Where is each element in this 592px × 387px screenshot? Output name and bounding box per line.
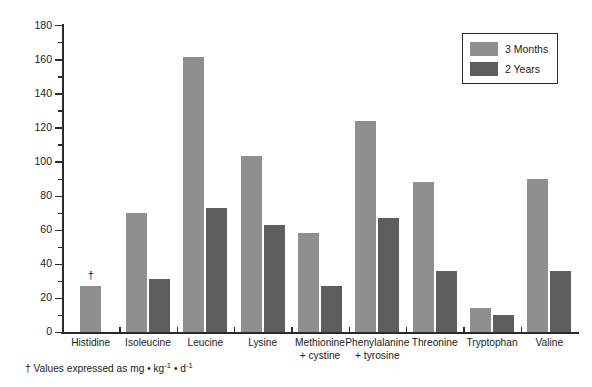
bar [550,271,571,332]
x-axis-label: Valine [512,336,587,349]
bar [126,213,147,332]
dagger-annotation: † [88,270,94,281]
bar-group [234,25,291,332]
bar-group [349,25,406,332]
y-tick-label-140: 140 [4,88,52,99]
legend-item-3-months: 3 Months [470,40,548,57]
footnote-text-2: • d [171,363,186,374]
y-tick-label-120: 120 [4,122,52,133]
y-tick-label-40: 40 [4,258,52,269]
y-tick-0 [55,332,63,333]
x-axis-label-line2: + tyrosine [340,349,415,362]
bar [436,271,457,332]
y-tick-label-0: 0 [4,326,52,337]
bar [149,279,170,332]
x-axis-line [61,332,579,334]
x-axis-label-line1: Leucine [187,337,223,348]
legend-label-2-years: 2 Years [505,63,540,75]
bar [183,57,204,332]
legend-item-2-years: 2 Years [470,60,548,77]
bar-group [291,25,348,332]
bar [493,315,514,332]
bar [470,308,491,332]
x-axis-label-line1: Threonine [412,337,458,348]
x-axis-label-line1: Methionine [295,337,345,348]
legend-swatch-2-years [470,62,498,76]
footnote-text-1: Values expressed as mg • kg [31,363,165,374]
bar-group [406,25,463,332]
bar-group [177,25,234,332]
y-axis-labels: 180 160 140 120 100 80 60 40 20 0 [0,0,52,387]
x-axis-label-line1: Lysine [248,337,277,348]
y-tick-label-60: 60 [4,224,52,235]
x-axis-label-line1: Tryptophan [466,337,517,348]
bar [321,286,342,332]
y-tick-label-180: 180 [4,20,52,31]
y-tick-label-20: 20 [4,292,52,303]
y-tick-label-100: 100 [4,156,52,167]
y-tick-label-160: 160 [4,54,52,65]
bar-chart-figure: 180 160 140 120 100 80 60 40 20 0 † Hist… [0,0,592,387]
bar [413,182,434,332]
x-axis-label-line1: Valine [536,337,564,348]
bar [80,286,101,332]
bar [264,225,285,332]
bar-group [119,25,176,332]
bar-group: † [62,25,119,332]
y-tick-label-80: 80 [4,190,52,201]
legend-label-3-months: 3 Months [505,43,548,55]
legend-swatch-3-months [470,42,498,56]
bar [206,208,227,333]
footnote-sup-2: -1 [186,361,193,370]
legend: 3 Months 2 Years [462,33,558,84]
bar [378,218,399,332]
bar [527,179,548,333]
x-axis-label-line1: Isoleucine [125,337,171,348]
bar [355,121,376,332]
bar [298,233,319,332]
x-axis-label-line1: Histidine [71,337,110,348]
bar [241,156,262,332]
footnote: † Values expressed as mg • kg-1 • d-1 [25,359,193,375]
